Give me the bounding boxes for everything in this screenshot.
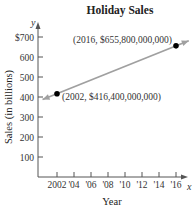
x-tick-label: 2002 [48,180,67,190]
trend-arrow-end-icon [181,41,189,47]
data-point [54,91,60,97]
y-tick-label: $700 [15,33,34,43]
x-axis-letter: x [186,181,192,192]
points-layer: (2002, $416,400,000,000)(2016, $655,800,… [54,35,179,103]
x-tick-label: '04 [68,180,79,190]
data-point-label: (2016, $655,800,000,000) [73,35,172,46]
x-tick-label: '06 [85,180,96,190]
x-axis-title: Year [102,196,122,207]
x-ticks: 2002'04'06'08'10'12'14'16 [48,172,182,190]
y-axis-title: Sales (in billions) [3,69,15,144]
y-tick-label: 500 [20,73,35,83]
x-tick-label: '14 [153,180,164,190]
y-tick-label: 100 [20,153,35,163]
trend-line [43,41,189,100]
data-point-label: (2002, $416,400,000,000) [62,92,161,103]
x-axis-arrow-icon [181,175,188,180]
x-tick-label: '12 [136,180,147,190]
y-tick-label: 300 [20,113,35,123]
y-axis-arrow-icon [36,22,41,29]
y-ticks: 100200300400500600$700 [15,33,43,163]
holiday-sales-chart: Holiday Sales y x 100200300400500600$700… [0,0,193,210]
x-tick-label: '16 [170,180,181,190]
y-tick-label: 600 [20,53,35,63]
x-tick-label: '10 [119,180,130,190]
x-tick-label: '08 [102,180,113,190]
y-tick-label: 200 [20,133,35,143]
y-axis-letter: y [30,17,36,28]
trend-arrow-start-icon [43,94,51,100]
chart-title: Holiday Sales [87,4,154,17]
y-tick-label: 400 [20,93,35,103]
data-point [173,43,179,49]
